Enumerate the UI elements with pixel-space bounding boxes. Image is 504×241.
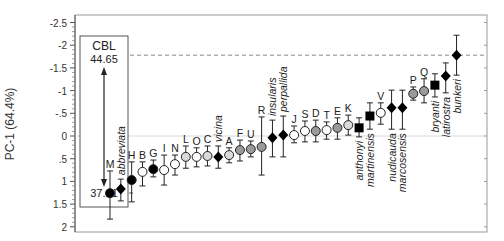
- circle-marker-icon: [333, 123, 342, 132]
- cbl-top-value: 44.65: [90, 53, 118, 65]
- data-point-A: A: [225, 135, 234, 163]
- y-tick-label: 0: [61, 131, 67, 142]
- data-point-U: U: [246, 128, 255, 157]
- square-marker-icon: [355, 123, 364, 132]
- data-point-N: N: [170, 142, 179, 175]
- data-point-F: F: [235, 127, 244, 161]
- circle-marker-icon: [246, 145, 255, 154]
- cbl-title: CBL: [92, 39, 116, 53]
- y-tick-label: -2.5: [50, 18, 68, 29]
- data-point-J: J: [290, 113, 299, 143]
- diamond-marker-icon: [441, 71, 451, 82]
- data-point-C: C: [203, 133, 212, 166]
- data-point-B: B: [138, 149, 147, 186]
- data-point-vicina: vicina: [212, 115, 224, 168]
- circle-marker-icon: [290, 131, 299, 140]
- y-tick-label: -2: [58, 40, 67, 51]
- chart-canvas: PC-1 (64.4%) -2.5-2-1.5-1-.50.511.52 CBL…: [0, 0, 504, 241]
- circle-marker-icon: [106, 189, 115, 198]
- data-point-T: T: [322, 109, 331, 139]
- square-marker-icon: [365, 112, 374, 121]
- circle-marker-icon: [203, 151, 212, 160]
- circle-marker-icon: [170, 160, 179, 169]
- circle-marker-icon: [257, 142, 266, 151]
- circle-marker-icon: [225, 151, 234, 160]
- group-label: V: [377, 90, 384, 102]
- group-label: M: [106, 158, 115, 170]
- species-label: perpallida: [277, 66, 289, 113]
- diamond-marker-icon: [387, 102, 397, 113]
- group-label: S: [301, 108, 308, 120]
- diamond-marker-icon: [278, 130, 288, 141]
- group-label: C: [204, 133, 212, 145]
- group-label: R: [258, 104, 266, 116]
- species-label: abbreviata: [115, 126, 127, 175]
- group-label: B: [139, 149, 146, 161]
- species-label: bunkeri: [451, 79, 463, 114]
- data-point-D: D: [311, 107, 320, 142]
- data-point-martinensis: martinensis: [364, 103, 376, 187]
- y-tick-label: 1.5: [53, 199, 67, 210]
- data-point-K: K: [344, 102, 353, 135]
- group-label: F: [237, 127, 243, 139]
- data-point-E: E: [333, 105, 342, 139]
- group-label: E: [334, 105, 341, 117]
- diamond-marker-icon: [452, 50, 462, 61]
- circle-marker-icon: [235, 146, 244, 155]
- y-tick-label: -.5: [55, 108, 67, 119]
- data-point-G: G: [149, 147, 158, 177]
- group-label: I: [163, 142, 166, 154]
- group-label: A: [226, 135, 233, 147]
- species-label: martinensis: [364, 132, 376, 186]
- circle-marker-icon: [127, 176, 136, 185]
- y-tick-label: 2: [61, 222, 67, 233]
- circle-marker-icon: [181, 152, 190, 161]
- circle-marker-icon: [409, 89, 418, 98]
- circle-marker-icon: [160, 166, 169, 175]
- group-label: Q: [420, 66, 428, 78]
- y-axis-ticks: -2.5-2-1.5-1-.50.511.52: [50, 18, 75, 233]
- data-point-perpallida: perpallida: [277, 66, 289, 157]
- circle-marker-icon: [192, 152, 201, 161]
- data-point-L: L: [181, 133, 190, 168]
- group-label: K: [345, 102, 352, 114]
- circle-marker-icon: [300, 127, 309, 136]
- group-label: P: [410, 74, 417, 86]
- group-label: U: [247, 128, 255, 140]
- group-label: L: [183, 133, 189, 145]
- y-axis-label: PC-1 (64.4%): [3, 88, 17, 161]
- y-tick-label: .5: [59, 154, 68, 165]
- y-tick-label: -1: [58, 86, 67, 97]
- data-point-V: V: [376, 90, 385, 124]
- diamond-marker-icon: [397, 102, 407, 113]
- group-label: O: [193, 135, 201, 147]
- square-marker-icon: [430, 81, 439, 90]
- y-tick-label: 1: [61, 176, 67, 187]
- group-label: T: [323, 109, 330, 121]
- data-point-marcosensis: marcosensis: [396, 90, 408, 192]
- data-points: MabbreviataHBGINLOCvicinaAFURinsularispe…: [106, 35, 463, 219]
- group-label: G: [149, 147, 157, 159]
- circle-marker-icon: [149, 165, 158, 174]
- diamond-marker-icon: [267, 132, 277, 143]
- circle-marker-icon: [376, 108, 385, 117]
- data-point-Q: Q: [420, 66, 429, 103]
- plot-frame: [75, 15, 487, 232]
- group-label: J: [291, 113, 296, 125]
- data-point-S: S: [300, 108, 309, 142]
- circle-marker-icon: [311, 127, 320, 136]
- data-point-O: O: [192, 135, 201, 167]
- circle-marker-icon: [322, 126, 331, 135]
- data-point-I: I: [160, 142, 169, 185]
- diamond-marker-icon: [213, 151, 223, 162]
- data-point-abbreviata: abbreviata: [115, 126, 127, 201]
- data-point-H: H: [127, 149, 136, 202]
- group-label: H: [128, 149, 136, 161]
- circle-marker-icon: [138, 167, 147, 176]
- species-label: vicina: [212, 115, 224, 142]
- group-label: N: [171, 142, 179, 154]
- data-point-P: P: [409, 74, 418, 100]
- group-label: D: [312, 107, 320, 119]
- data-point-bunkeri: bunkeri: [451, 35, 463, 113]
- y-tick-label: -1.5: [50, 63, 68, 74]
